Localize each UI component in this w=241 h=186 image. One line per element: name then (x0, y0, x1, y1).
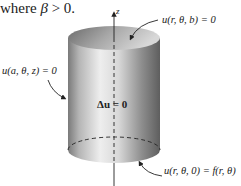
bottom-leader-arrow (140, 163, 162, 176)
cylinder-diagram (0, 0, 241, 186)
bottom-boundary-label: u(r, θ, 0) = f(r, θ) (164, 165, 236, 176)
side-leader-arrow (48, 80, 64, 98)
laplace-equation-label: Δu = 0 (97, 98, 127, 110)
side-boundary-label: u(a, θ, z) = 0 (2, 65, 57, 76)
z-axis-label: z (116, 6, 120, 16)
top-boundary-label: u(r, θ, b) = 0 (162, 14, 216, 25)
